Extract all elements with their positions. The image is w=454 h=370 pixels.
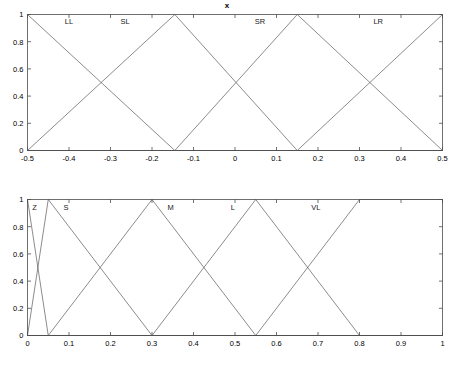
mf-curve-sl <box>28 15 443 151</box>
mf-label-vl: VL <box>311 203 320 212</box>
xtick-label: 0.8 <box>354 339 364 348</box>
ytick-label: 1 <box>19 10 23 19</box>
xtick-label: 0 <box>25 339 29 348</box>
plot-panel-d: d 00.10.20.30.40.50.60.70.80.9100.20.40.… <box>0 185 454 370</box>
mf-curve-vl <box>28 200 443 336</box>
axis-box <box>28 200 443 336</box>
xtick-label: -0.4 <box>63 154 76 163</box>
xtick-label: 0.2 <box>105 339 115 348</box>
xtick-label: 0.2 <box>313 154 323 163</box>
xtick-label: -0.5 <box>21 154 34 163</box>
mf-curve-s <box>28 200 443 336</box>
xtick-label: 0.3 <box>354 154 364 163</box>
xtick-label: 0.9 <box>396 339 406 348</box>
ytick-label: 0.6 <box>13 65 23 74</box>
xtick-label: 0.5 <box>437 154 447 163</box>
ytick-label: 0.4 <box>13 92 23 101</box>
axis-box <box>28 15 443 151</box>
mf-label-sl: SL <box>120 17 129 26</box>
xtick-label: 0.4 <box>396 154 406 163</box>
mf-label-l: L <box>231 203 235 212</box>
mf-label-lr: LR <box>373 17 383 26</box>
xtick-label: -0.1 <box>187 154 200 163</box>
mf-label-s: S <box>64 203 69 212</box>
xtick-label: 0.6 <box>271 339 281 348</box>
ytick-label: 0.2 <box>13 119 23 128</box>
ytick-label: 0.6 <box>13 250 23 259</box>
xtick-label: 0.3 <box>147 339 157 348</box>
plot-panel-x: x -0.5-0.4-0.3-0.2-0.100.10.20.30.40.500… <box>0 0 454 185</box>
plot-area-x: -0.5-0.4-0.3-0.2-0.100.10.20.30.40.500.2… <box>0 0 454 185</box>
mf-label-sr: SR <box>255 17 266 26</box>
ytick-label: 0.8 <box>13 38 23 47</box>
xtick-label: 0.5 <box>230 339 240 348</box>
xtick-label: 0.1 <box>64 339 74 348</box>
mf-curve-l <box>28 200 443 336</box>
mf-curve-ll <box>28 15 443 151</box>
xtick-label: 0.4 <box>188 339 198 348</box>
mf-curve-z <box>28 200 443 336</box>
plot-area-d: 00.10.20.30.40.50.60.70.80.9100.20.40.60… <box>0 185 454 370</box>
ytick-label: 0 <box>19 146 23 155</box>
mf-curve-lr <box>28 15 443 151</box>
xtick-label: 1 <box>440 339 444 348</box>
mf-curve-m <box>28 200 443 336</box>
xtick-label: -0.3 <box>104 154 117 163</box>
mf-label-ll: LL <box>65 17 73 26</box>
ytick-label: 1 <box>19 195 23 204</box>
mf-label-m: M <box>168 203 174 212</box>
mf-label-z: Z <box>32 203 37 212</box>
ytick-label: 0.4 <box>13 277 23 286</box>
xtick-label: -0.2 <box>146 154 159 163</box>
mf-curve-sr <box>28 15 443 151</box>
xtick-label: 0.1 <box>271 154 281 163</box>
ytick-label: 0 <box>19 331 23 340</box>
ytick-label: 0.2 <box>13 304 23 313</box>
xtick-label: 0.7 <box>313 339 323 348</box>
ytick-label: 0.8 <box>13 223 23 232</box>
figure-container: x -0.5-0.4-0.3-0.2-0.100.10.20.30.40.500… <box>0 0 454 370</box>
xtick-label: 0 <box>233 154 237 163</box>
